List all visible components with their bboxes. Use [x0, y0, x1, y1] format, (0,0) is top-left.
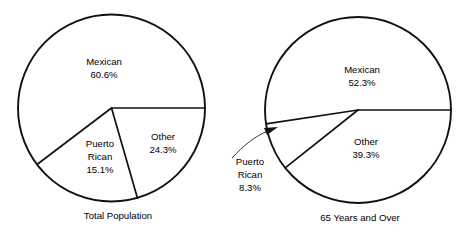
- left-slice-label-mexican-name: Mexican: [86, 56, 122, 67]
- pie-chart-figure: Mexican 60.6% Puerto Rican 15.1% Other 2…: [0, 0, 465, 233]
- left-slice-label-mexican-percent: 60.6%: [90, 69, 118, 80]
- left-pie-chart: Mexican 60.6% Puerto Rican 15.1% Other 2…: [18, 15, 205, 221]
- left-chart-caption: Total Population: [84, 210, 152, 221]
- right-slice-label-puertorican-name2: Rican: [238, 169, 263, 180]
- left-slice-label-other-name: Other: [151, 131, 176, 142]
- right-slice-label-other-percent: 39.3%: [352, 149, 380, 160]
- left-slice-label-other-percent: 24.3%: [149, 144, 177, 155]
- right-pie-chart: Mexican 52.3% Other 39.3% Puerto Rican 8…: [232, 17, 451, 223]
- right-slice-label-mexican-name: Mexican: [344, 64, 380, 75]
- left-slice-label-puertorican-percent: 15.1%: [86, 164, 114, 175]
- right-slice-label-mexican-percent: 52.3%: [348, 77, 376, 88]
- right-slice-label-other-name: Other: [354, 136, 379, 147]
- right-slice-label-puertorican-name: Puerto: [236, 156, 264, 167]
- right-slice-label-puertorican-percent: 8.3%: [239, 182, 261, 193]
- left-slice-label-puertorican-name: Puerto: [86, 138, 114, 149]
- right-chart-caption: 65 Years and Over: [320, 212, 400, 223]
- chart-svg: Mexican 60.6% Puerto Rican 15.1% Other 2…: [0, 0, 465, 233]
- right-puertorican-leader-line: [232, 131, 268, 158]
- left-slice-label-puertorican-name2: Rican: [88, 151, 113, 162]
